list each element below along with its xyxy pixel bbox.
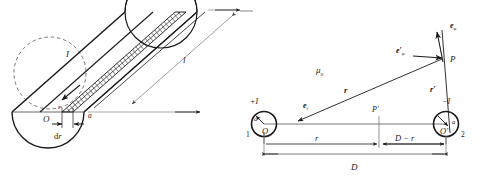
vector-r-prime-line <box>442 30 450 133</box>
label-radius-a-left: a <box>254 115 257 122</box>
cylinder-back-circle <box>14 37 86 109</box>
label-vector-r-prime: r′ <box>430 84 436 94</box>
label-field-point-P: P <box>449 54 456 64</box>
label-unit-vector-e-phi-prime: e′φ <box>396 46 405 56</box>
label-thickness-dr: dr <box>54 131 62 141</box>
label-origin-O-left: O <box>262 126 268 136</box>
label-dimension-r: r <box>315 133 319 143</box>
figure-root: I l O r a dr <box>0 0 481 180</box>
label-radius-r: r <box>58 103 61 111</box>
label-unit-vector-e-r: er <box>303 101 309 111</box>
label-field-point-P-prime: P′ <box>371 105 379 114</box>
label-permeability-mu0: μ0 <box>315 65 324 77</box>
label-wire-number-1: 1 <box>246 130 250 139</box>
label-outer-radius-a: a <box>88 111 92 120</box>
dimension-r <box>264 132 377 144</box>
label-radius-a-right: a <box>452 118 455 125</box>
label-current-plus-I: +I <box>250 97 258 106</box>
label-origin-O: O <box>43 114 50 124</box>
current-arrow-I <box>62 85 80 100</box>
label-current-I: I <box>65 49 70 59</box>
label-wire-number-2: 2 <box>461 130 465 139</box>
label-vector-r: r <box>344 85 348 95</box>
left-panel-cylinder-diagram: I l O r a dr <box>0 0 481 180</box>
annular-element-strip <box>62 12 186 112</box>
label-origin-O-prime-right: O′ <box>440 126 448 136</box>
unit-vector-e-phi-prime-arrow <box>413 56 442 58</box>
dimension-D-minus-r <box>383 136 446 144</box>
label-dimension-D: D <box>350 162 358 172</box>
label-dimension-D-minus-r: D − r <box>394 133 415 143</box>
label-current-minus-I: −I <box>442 97 450 106</box>
label-unit-vector-e-phi: eφ <box>450 21 457 31</box>
